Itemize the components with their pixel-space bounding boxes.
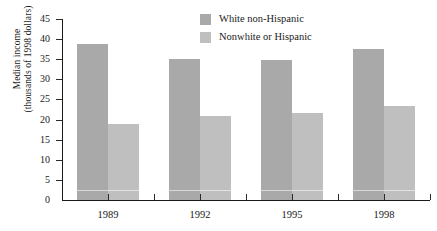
bar — [200, 116, 231, 200]
x-axis-boundary-tick — [430, 194, 431, 200]
y-axis-tick — [56, 59, 62, 60]
x-axis-boundary-tick — [154, 194, 155, 200]
scan-artifact — [261, 190, 292, 191]
y-axis-tick-label: 40 — [28, 34, 50, 44]
bar — [384, 106, 415, 200]
x-axis-tick — [292, 194, 293, 200]
x-axis-line — [62, 200, 430, 201]
legend-item: Nonwhite or Hispanic — [200, 31, 312, 43]
x-axis-boundary-tick — [338, 194, 339, 200]
x-axis-tick — [200, 194, 201, 200]
y-axis-tick — [56, 180, 62, 181]
y-axis-tick-label: 20 — [28, 115, 50, 125]
y-axis-tick-label: 0 — [28, 195, 50, 205]
y-axis-tick — [56, 140, 62, 141]
y-axis-tick-label: 25 — [28, 94, 50, 104]
legend-label-nonwhite-or-hispanic: Nonwhite or Hispanic — [219, 31, 312, 43]
y-axis-tick-label: 15 — [28, 135, 50, 145]
legend-swatch-nonwhite-or-hispanic — [200, 32, 211, 43]
bar — [292, 113, 323, 200]
scan-artifact — [200, 190, 231, 191]
legend-label-white-non-hispanic: White non-Hispanic — [219, 13, 304, 25]
bar — [108, 124, 139, 200]
scan-artifact — [169, 190, 200, 191]
y-axis-tick-label: 5 — [28, 175, 50, 185]
x-axis-tick-label: 1989 — [78, 209, 138, 220]
y-axis-tick — [56, 39, 62, 40]
y-axis-line — [62, 19, 63, 201]
x-axis-tick — [108, 194, 109, 200]
scan-artifact — [353, 190, 384, 191]
scan-artifact — [292, 190, 323, 191]
y-axis-tick — [56, 99, 62, 100]
y-axis-tick-label: 35 — [28, 54, 50, 64]
y-axis-tick — [56, 79, 62, 80]
scan-artifact — [108, 190, 139, 191]
legend-swatch-white-non-hispanic — [200, 14, 211, 25]
x-axis-tick-label: 1992 — [170, 209, 230, 220]
y-axis-tick — [56, 19, 62, 20]
scan-artifact — [384, 190, 415, 191]
legend-item: White non-Hispanic — [200, 13, 312, 25]
bar — [77, 44, 108, 200]
bar — [169, 59, 200, 200]
x-axis-tick — [384, 194, 385, 200]
y-axis-tick — [56, 160, 62, 161]
y-axis-tick-label: 30 — [28, 74, 50, 84]
scan-artifact — [77, 190, 108, 191]
bar — [353, 49, 384, 200]
y-axis-tick-label: 10 — [28, 155, 50, 165]
bar-chart: Median income (thousands of 1998 dollars… — [0, 0, 437, 231]
y-axis-tick-label: 45 — [28, 14, 50, 24]
x-axis-tick-label: 1995 — [262, 209, 322, 220]
chart-legend: White non-Hispanic Nonwhite or Hispanic — [200, 13, 312, 49]
x-axis-tick-label: 1998 — [354, 209, 414, 220]
y-axis-tick — [56, 120, 62, 121]
x-axis-boundary-tick — [246, 194, 247, 200]
bar — [261, 60, 292, 200]
